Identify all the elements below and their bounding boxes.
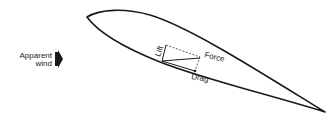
airfoil-outline: [87, 10, 325, 112]
drag-label: Drag: [191, 72, 210, 84]
lift-dashed-top: [166, 45, 200, 57]
apparent-wind-label-line2: wind: [35, 59, 52, 68]
force-vector: [162, 58, 200, 61]
wind-arrow-icon: [55, 50, 63, 68]
force-label: Force: [204, 50, 227, 64]
airfoil-force-diagram: Lift Force Drag Apparent wind: [0, 0, 335, 120]
drag-dashed-side: [195, 57, 200, 71]
